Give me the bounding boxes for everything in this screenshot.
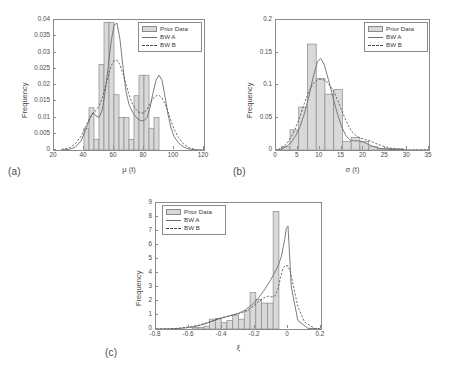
histogram-bar [104,22,109,150]
x-tickmark [319,146,320,149]
histogram-bar [239,319,245,329]
x-tick-label: 100 [159,151,187,158]
x-tickmark [155,325,156,328]
y-tickmark [53,133,56,134]
y-tick-label: 8 [125,212,152,219]
histogram-bar [256,300,262,329]
panel-b-label: (b) [233,166,246,177]
prior-data-swatch [142,26,157,32]
x-tick-label: 120 [189,151,217,158]
x-tickmark [254,325,255,328]
x-tickmark [203,146,204,149]
y-tick-label: 2 [125,296,152,303]
y-tickmark [275,19,278,20]
histogram-bar [299,107,308,150]
histogram-bar [325,94,334,150]
y-tick-label: 5 [125,254,152,261]
histogram-bar [149,128,154,150]
y-tickmark [155,314,158,315]
legend-label-bw-b: BW B [184,225,200,232]
x-tickmark [297,146,298,149]
panel-a: Frequency μ (t) (a) Prior Data BW A BW B… [0,0,225,185]
y-tick-label: 0.2 [245,15,272,22]
y-tickmark [275,117,278,118]
legend-row-bw-a: BW A [368,33,424,41]
histogram-bar [267,303,273,329]
y-tick-label: 0.01 [23,113,50,120]
x-tick-label: -0.4 [207,330,235,337]
histogram-bar [334,90,343,150]
panel-b: Frequency σ (t) (b) Prior Data BW A BW B… [225,0,450,185]
legend-label-prior: Prior Data [386,26,414,33]
x-tickmark [221,325,222,328]
x-tick-label: -0.6 [174,330,202,337]
y-tickmark [275,84,278,85]
x-tick-label: 0 [273,330,301,337]
legend-row-prior: Prior Data [166,208,222,216]
x-tickmark [320,325,321,328]
x-tick-label: 40 [69,151,97,158]
y-tickmark [155,328,158,329]
panel-c-xlabel: ξ [155,343,322,352]
histogram-bar [114,95,119,150]
y-tick-label: 7 [125,226,152,233]
legend-row-prior: Prior Data [142,25,198,33]
y-tick-label: 0.1 [245,80,272,87]
histogram-bar [227,321,233,329]
y-tick-label: 0.03 [23,48,50,55]
bw-b-line-swatch [368,45,383,46]
x-tick-label: 20 [39,151,67,158]
histogram-bar [342,142,351,150]
x-tick-label: 60 [99,151,127,158]
x-tick-label: -0.8 [141,330,169,337]
bw-a-line-swatch [142,37,157,38]
histogram-bar [119,118,124,151]
y-tickmark [53,100,56,101]
prior-data-swatch [368,26,383,32]
bw-a-line-swatch [368,37,383,38]
y-tick-label: 0.15 [245,48,272,55]
panel-a-xlabel: μ (t) [53,165,205,174]
x-tickmark [341,146,342,149]
histogram-bar [221,323,227,329]
y-tickmark [155,216,158,217]
y-tickmark [155,202,158,203]
y-tickmark [275,149,278,150]
bw-b-line-swatch [166,228,181,229]
x-tick-label: 35 [414,151,442,158]
legend-label-bw-b: BW B [386,42,402,49]
y-tickmark [53,117,56,118]
histogram-bar [233,315,239,329]
panel-c-label: (c) [105,347,117,358]
panel-c-legend: Prior Data BW A BW B [162,205,226,235]
x-tickmark [188,325,189,328]
x-tick-label: -0.2 [240,330,268,337]
y-tickmark [53,19,56,20]
x-tickmark [428,146,429,149]
legend-label-prior: Prior Data [184,209,212,216]
x-tickmark [287,325,288,328]
x-tickmark [406,146,407,149]
y-tick-label: 6 [125,240,152,247]
x-tickmark [275,146,276,149]
x-tickmark [113,146,114,149]
x-tickmark [362,146,363,149]
y-tickmark [53,35,56,36]
y-tick-label: 0.015 [23,96,50,103]
panel-b-xlabel: σ (t) [275,165,430,174]
histogram-bar [244,311,250,329]
histogram-bar [99,65,104,150]
y-tick-label: 9 [125,198,152,205]
histogram-bar [134,96,139,150]
y-tickmark [155,258,158,259]
x-tickmark [53,146,54,149]
y-tickmark [155,230,158,231]
y-tick-label: 4 [125,268,152,275]
x-tickmark [143,146,144,149]
y-tick-label: 0.04 [23,15,50,22]
legend-label-bw-a: BW A [184,217,199,224]
legend-row-bw-b: BW B [166,224,222,232]
legend-row-bw-b: BW B [142,41,198,49]
y-tickmark [53,84,56,85]
y-tick-label: 1 [125,310,152,317]
